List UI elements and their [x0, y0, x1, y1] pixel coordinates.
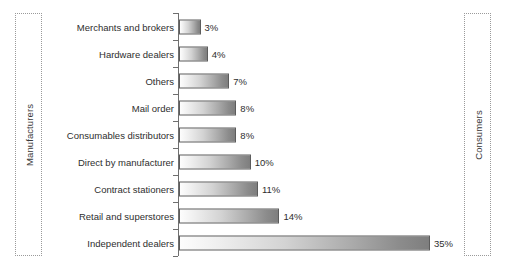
category-label: Contract stationers [94, 183, 174, 194]
bar-row: Retail and superstores14% [0, 202, 509, 229]
bar-row: Others7% [0, 67, 509, 94]
bar-value-label: 8% [240, 102, 254, 113]
category-label: Direct by manufacturer [78, 156, 174, 167]
bar-row: Direct by manufacturer10% [0, 148, 509, 175]
category-label: Hardware dealers [99, 48, 174, 59]
bar[interactable] [179, 208, 279, 223]
chart-canvas: Manufacturers Consumers Merchants and br… [0, 0, 509, 269]
bar-value-label: 11% [262, 183, 280, 194]
bar-value-label: 14% [283, 210, 302, 221]
bar[interactable] [179, 127, 236, 142]
bar-row: Consumables distributors8% [0, 121, 509, 148]
bar[interactable] [179, 46, 208, 61]
axis-tick [173, 256, 178, 257]
bar-chart-plot: Merchants and brokers3%Hardware dealers4… [0, 0, 509, 269]
bar[interactable] [179, 181, 258, 196]
bar-row: Merchants and brokers3% [0, 13, 509, 40]
bar-value-label: 35% [434, 237, 453, 248]
bar[interactable] [179, 19, 201, 34]
bar-row: Contract stationers11% [0, 175, 509, 202]
bar-row: Hardware dealers4% [0, 40, 509, 67]
bar-row: Mail order8% [0, 94, 509, 121]
bar-value-label: 8% [240, 129, 254, 140]
category-label: Merchants and brokers [77, 21, 174, 32]
bar[interactable] [179, 73, 229, 88]
category-label: Retail and superstores [79, 210, 174, 221]
category-label: Consumables distributors [67, 129, 174, 140]
category-label: Others [145, 75, 174, 86]
bar[interactable] [179, 154, 251, 169]
category-label: Independent dealers [87, 237, 174, 248]
category-label: Mail order [132, 102, 174, 113]
bar[interactable] [179, 100, 236, 115]
bar-value-label: 3% [205, 21, 219, 32]
bar[interactable] [179, 235, 430, 250]
bar-value-label: 10% [255, 156, 274, 167]
bar-row: Independent dealers35% [0, 229, 509, 256]
bar-value-label: 7% [233, 75, 247, 86]
bar-value-label: 4% [212, 48, 226, 59]
